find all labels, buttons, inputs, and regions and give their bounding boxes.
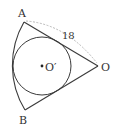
label-length-18: 18 — [62, 30, 75, 41]
sector-arc-AB — [12, 22, 25, 110]
sector-diagram: A B O O′ 18 — [0, 0, 119, 128]
label-B: B — [19, 114, 27, 127]
label-O: O — [101, 61, 110, 74]
label-O-prime: O′ — [45, 61, 57, 74]
length-marker-arc — [26, 21, 97, 63]
center-point-O-prime — [41, 65, 44, 68]
label-A: A — [17, 7, 27, 20]
